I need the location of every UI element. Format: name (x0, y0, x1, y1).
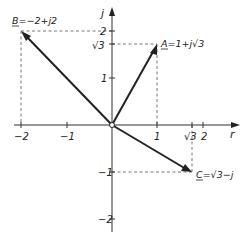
vectors (21, 31, 192, 172)
complex-plane-diagram: r j −2 −1 1 √3 2 2 √3 1 −1 −2 (0, 0, 247, 240)
x-tick-label: −1 (60, 131, 75, 142)
imaginary-axis-arrow-icon (109, 7, 115, 16)
y-tick-label: 2 (100, 26, 106, 37)
vector-b-label: B=−2+j2 (12, 15, 57, 26)
y-tick-label: √3 (92, 40, 105, 51)
x-tick-label: 2 (201, 131, 207, 142)
x-tick-label: 1 (154, 131, 160, 142)
imaginary-axis-label: j (99, 7, 105, 20)
vector-a-label: A=1+j√3 (160, 38, 204, 49)
y-tick-label: −1 (98, 167, 113, 178)
x-tick-label: −2 (14, 131, 29, 142)
vector-c-label: C=√3−j (196, 169, 234, 180)
real-axis-label: r (230, 128, 236, 141)
y-tick-label: −2 (98, 214, 113, 225)
vector-c (112, 125, 186, 169)
y-tick-label: 1 (101, 73, 107, 84)
vector-a (112, 50, 154, 125)
origin-marker (110, 123, 115, 128)
projection-lines (21, 31, 192, 172)
x-tick-label: √3 (184, 131, 197, 142)
vector-labels: B=−2+j2 A=1+j√3 C=√3−j (12, 15, 234, 180)
axes: r j (14, 7, 240, 232)
